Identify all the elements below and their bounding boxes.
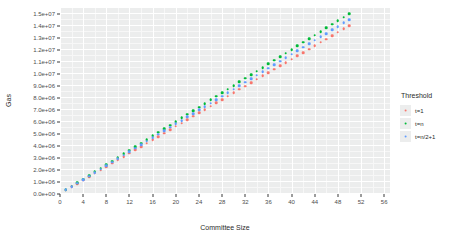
x-axis-tick-mark <box>337 194 338 197</box>
x-axis-tick-mark <box>152 194 153 197</box>
x-axis-tick-mark <box>245 194 246 197</box>
y-axis-tick-label: 1.2e+07 <box>33 47 55 53</box>
gridline-major-vertical <box>245 8 246 194</box>
data-point <box>348 12 351 15</box>
data-point <box>261 70 264 73</box>
data-point <box>267 63 270 66</box>
data-point <box>284 52 287 55</box>
gridline-major-horizontal <box>60 25 390 26</box>
data-point <box>319 41 322 44</box>
data-point <box>180 119 183 122</box>
legend-title: Threshold <box>401 92 472 99</box>
gridline-minor-horizontal <box>60 19 390 20</box>
y-axis-tick-label: 2.0e+06 <box>33 167 55 173</box>
data-point <box>256 70 259 73</box>
x-axis-tick-label: 40 <box>288 199 295 205</box>
y-axis-tick-label: 6.0e+06 <box>33 119 55 125</box>
gridline-minor-vertical <box>95 8 96 194</box>
data-point <box>122 154 125 157</box>
gridline-minor-vertical <box>118 8 119 194</box>
gridline-minor-horizontal <box>60 67 390 68</box>
gridline-major-horizontal <box>60 85 390 86</box>
data-point <box>267 71 270 74</box>
data-point <box>337 19 340 22</box>
data-point <box>279 55 282 58</box>
x-axis-tick-label: 24 <box>196 199 203 205</box>
legend-item[interactable]: t=1 <box>400 104 472 117</box>
x-axis-title-label: Committee Size <box>200 224 249 231</box>
gridline-major-vertical <box>199 8 200 194</box>
data-point <box>325 32 328 35</box>
x-axis-tick-mark <box>60 194 61 197</box>
y-axis-tick-label: 1.3e+07 <box>33 35 55 41</box>
x-axis-tick-mark <box>198 194 199 197</box>
data-point <box>163 130 166 133</box>
data-point <box>256 78 259 81</box>
data-point <box>209 105 212 108</box>
data-point <box>203 108 206 111</box>
gridline-minor-horizontal <box>60 91 390 92</box>
data-point <box>198 109 201 112</box>
y-axis-tick-label: 9.0e+06 <box>33 83 55 89</box>
gridline-minor-horizontal <box>60 103 390 104</box>
gridline-major-horizontal <box>60 181 390 182</box>
legend-point-icon <box>404 122 407 125</box>
gridline-minor-vertical <box>72 8 73 194</box>
data-point <box>232 88 235 91</box>
data-point <box>296 55 299 58</box>
y-axis-tick-label: 3.0e+06 <box>33 155 55 161</box>
data-point <box>117 157 120 160</box>
gas-vs-committee-size-scatter-chart: Gas 0.0e+001.0e+062.0e+063.0e+064.0e+065… <box>0 0 474 243</box>
x-axis-tick-mark <box>384 194 385 197</box>
data-point <box>151 137 154 140</box>
gridline-major-horizontal <box>60 61 390 62</box>
y-axis-tick-label: 1.0e+06 <box>33 179 55 185</box>
data-point <box>331 34 334 37</box>
data-point <box>302 41 305 44</box>
gridline-major-vertical <box>83 8 84 194</box>
gridline-minor-horizontal <box>60 115 390 116</box>
gridline-minor-vertical <box>141 8 142 194</box>
gridline-minor-horizontal <box>60 151 390 152</box>
data-point <box>221 91 224 94</box>
gridline-minor-vertical <box>373 8 374 194</box>
data-point <box>169 126 172 129</box>
legend-key-swatch <box>400 131 411 142</box>
legend-item[interactable]: t=n/2+1 <box>400 130 472 143</box>
data-point <box>296 45 299 48</box>
data-point <box>308 37 311 40</box>
y-axis-tick-labels: 0.0e+001.0e+062.0e+063.0e+064.0e+065.0e+… <box>16 0 60 200</box>
data-point <box>238 81 241 84</box>
gridline-major-vertical <box>338 8 339 194</box>
gridline-minor-horizontal <box>60 79 390 80</box>
gridline-minor-horizontal <box>60 43 390 44</box>
data-point <box>221 98 224 101</box>
x-axis-tick-label: 56 <box>381 199 388 205</box>
data-point <box>215 102 218 105</box>
x-axis-tick-mark <box>222 194 223 197</box>
y-axis-tick-label: 7.0e+06 <box>33 107 55 113</box>
legend-item[interactable]: t=n <box>400 117 472 130</box>
data-point <box>88 175 91 178</box>
gridline-minor-horizontal <box>60 127 390 128</box>
data-point <box>128 151 131 154</box>
data-point <box>227 88 230 91</box>
data-point <box>342 16 345 19</box>
data-point <box>99 168 102 171</box>
data-point <box>174 125 177 128</box>
gridline-major-vertical <box>384 8 385 194</box>
data-point <box>140 144 143 147</box>
data-point <box>64 189 67 192</box>
data-point <box>331 23 334 26</box>
gridline-major-vertical <box>222 8 223 194</box>
x-axis-tick-mark <box>129 194 130 197</box>
x-axis-tick-label: 44 <box>311 199 318 205</box>
x-axis-tick-label: 0 <box>58 199 61 205</box>
x-axis-tick-label: 32 <box>242 199 249 205</box>
data-point <box>227 95 230 98</box>
data-point <box>313 39 316 42</box>
data-point <box>250 81 253 84</box>
plot-panel <box>60 8 390 194</box>
data-point <box>261 66 264 69</box>
x-axis-tick-label: 8 <box>105 199 108 205</box>
